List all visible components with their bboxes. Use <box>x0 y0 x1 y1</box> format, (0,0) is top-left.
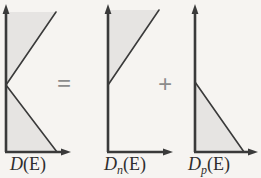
axis-label-holes: Dp(E) <box>188 155 230 176</box>
panel-holes-x-axis-arrowhead <box>248 148 258 155</box>
axis-label-total-main: D <box>10 154 23 174</box>
panel-electrons-y-axis-arrowhead <box>105 4 112 14</box>
axis-label-electrons-main: D <box>104 154 117 174</box>
axis-label-holes-arg: (E) <box>207 154 230 174</box>
axis-label-total: D(E) <box>10 155 46 176</box>
panel-total-x-axis-arrowhead <box>61 148 71 155</box>
axis-label-electrons: Dn(E) <box>104 155 146 176</box>
plus-sign: + <box>158 72 172 97</box>
equals-sign: = <box>57 71 71 96</box>
panel-holes <box>192 4 258 156</box>
panel-total-fill <box>7 12 56 152</box>
panel-total-y-axis-arrowhead <box>3 4 10 14</box>
panel-holes-y-axis-arrowhead <box>192 4 199 14</box>
figure-canvas: = + D(E) Dn(E) Dp(E) <box>0 0 261 178</box>
axis-label-electrons-arg: (E) <box>123 154 146 174</box>
panel-electrons-x-axis-arrowhead <box>163 148 173 155</box>
dos-figure-graphics <box>0 0 261 178</box>
axis-label-total-arg: (E) <box>23 154 46 174</box>
axis-label-holes-main: D <box>188 154 201 174</box>
